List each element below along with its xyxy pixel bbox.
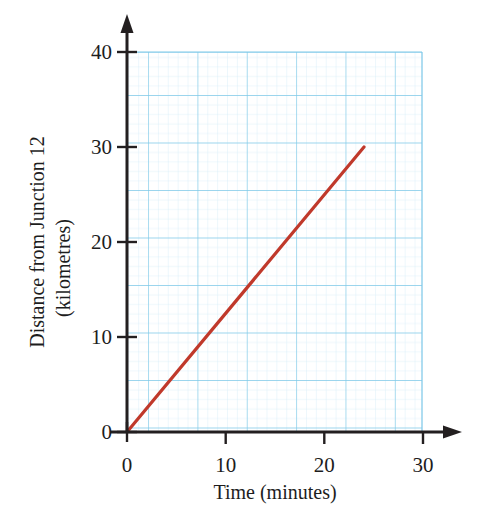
y-tick-label-30: 30 xyxy=(91,135,112,159)
x-axis-title: Time (minutes) xyxy=(213,481,336,504)
grid-area xyxy=(127,52,422,432)
y-tick-label-0: 0 xyxy=(102,420,113,444)
y-tick-label-20: 20 xyxy=(91,230,112,254)
y-tick-labels: 0 10 20 30 40 xyxy=(91,40,112,444)
x-tick-label-10: 10 xyxy=(215,453,236,477)
distance-time-graph: 0 10 20 30 40 0 10 20 30 Time (minutes) … xyxy=(0,0,492,512)
x-tick-labels: 0 10 20 30 xyxy=(122,453,434,477)
y-axis-title: Distance from Junction 12 (kilometres) xyxy=(26,136,75,348)
y-tick-label-10: 10 xyxy=(91,325,112,349)
graph-canvas: 0 10 20 30 40 0 10 20 30 Time (minutes) … xyxy=(0,0,492,512)
x-tick-label-20: 20 xyxy=(314,453,335,477)
x-tick-label-0: 0 xyxy=(122,453,133,477)
y-tick-label-40: 40 xyxy=(91,40,112,64)
y-axis-title-line2: (kilometres) xyxy=(52,219,75,317)
x-tick-label-30: 30 xyxy=(413,453,434,477)
y-axis-title-line1: Distance from Junction 12 xyxy=(26,136,48,348)
